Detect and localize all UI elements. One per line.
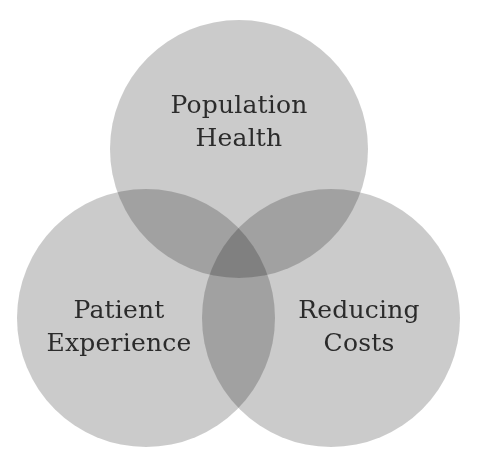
label-patient-experience: Patient Experience <box>47 293 192 359</box>
label-patient-experience-line1: Patient <box>47 293 192 326</box>
label-population-health-line1: Population <box>170 88 307 121</box>
label-population-health: Population Health <box>170 88 307 154</box>
label-reducing-costs-line2: Costs <box>298 326 419 359</box>
label-reducing-costs-line1: Reducing <box>298 293 419 326</box>
label-population-health-line2: Health <box>170 121 307 154</box>
label-reducing-costs: Reducing Costs <box>298 293 419 359</box>
label-patient-experience-line2: Experience <box>47 326 192 359</box>
venn-diagram: Population Health Patient Experience Red… <box>0 0 477 463</box>
